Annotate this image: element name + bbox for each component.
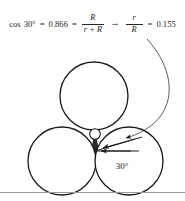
- ratio-numeric-value: 0.155: [156, 20, 175, 29]
- curved-callout-arrow: [126, 39, 169, 138]
- equals-sign-3: =: [147, 20, 154, 29]
- cosine-function-label: cos: [9, 20, 20, 29]
- fraction-1-numerator: R: [88, 14, 97, 22]
- fraction-2-denominator: R: [129, 26, 138, 34]
- fraction-1-denominator: r + R: [82, 26, 104, 34]
- implies-arrow-icon: →: [108, 19, 122, 29]
- equals-sign-1: =: [39, 20, 46, 29]
- fraction-R-over-r-plus-R: R r + R: [82, 14, 104, 35]
- center-small-circle: [90, 129, 101, 140]
- circle-packing-diagram: 30°: [0, 38, 185, 201]
- bottom-divider-rule: [0, 192, 185, 193]
- angle-label-30deg: 30°: [116, 161, 129, 171]
- top-circle: [60, 62, 128, 130]
- figure-root: cos 30° = 0.866 = R r + R → r R = 0.155: [0, 0, 185, 201]
- fraction-r-over-R: r R: [126, 14, 143, 35]
- fraction-2-numerator: r: [130, 14, 137, 22]
- angle-value-30deg: 30°: [24, 20, 36, 29]
- cosine-numeric-value: 0.866: [49, 20, 68, 29]
- lower-left-circle: [28, 127, 96, 195]
- equals-sign-2: =: [71, 20, 78, 29]
- equation-line: cos 30° = 0.866 = R r + R → r R = 0.155: [0, 9, 185, 39]
